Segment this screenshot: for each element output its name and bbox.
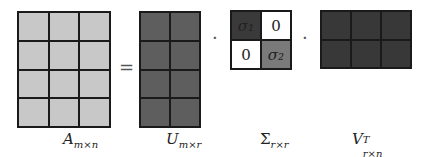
matrix-a-cell <box>49 12 80 41</box>
sigma-1-cell: σ₁ <box>231 11 261 40</box>
multiply-dot-2: · <box>302 27 308 48</box>
matrix-a-cell <box>18 41 49 70</box>
matrix-a-cell <box>49 70 80 99</box>
label-sigma: Σr×r <box>260 130 289 150</box>
label-u: Um×r <box>166 130 201 150</box>
label-a-main: A <box>63 130 74 148</box>
label-sigma-sub: r×r <box>271 139 289 150</box>
matrix-v-transpose <box>320 10 412 69</box>
matrix-a-cell <box>79 41 110 70</box>
matrix-v-cell <box>381 11 411 40</box>
sigma-2-cell: σ₂ <box>261 40 291 69</box>
matrix-v-cell <box>321 11 351 40</box>
matrix-u-cell <box>170 41 200 70</box>
sigma-zero-cell: 0 <box>231 40 261 69</box>
label-u-main: U <box>166 130 179 148</box>
matrix-a-cell <box>49 41 80 70</box>
matrix-u-cell <box>140 41 170 70</box>
matrix-v-cell <box>351 11 381 40</box>
matrix-u-cell <box>140 12 170 41</box>
matrix-u-cell <box>140 98 170 127</box>
matrix-u-cell <box>170 12 200 41</box>
matrix-a-cell <box>18 12 49 41</box>
multiply-dot-1: · <box>212 27 218 48</box>
matrix-a-cell <box>79 98 110 127</box>
matrix-a-cell <box>18 98 49 127</box>
matrix-sigma: σ₁ 0 0 σ₂ <box>230 10 292 70</box>
label-v-sup: T <box>363 134 370 145</box>
label-u-sub: m×r <box>179 139 202 150</box>
label-v-main: V <box>352 130 363 148</box>
sigma-zero-cell: 0 <box>261 11 291 40</box>
label-v: VTr×n <box>352 130 387 148</box>
matrix-v-cell <box>381 40 411 69</box>
matrix-a-cell <box>49 98 80 127</box>
matrix-v-cell <box>351 40 381 69</box>
label-a-sub: m×n <box>74 139 98 150</box>
matrix-u-cell <box>170 70 200 99</box>
matrix-u-cell <box>170 98 200 127</box>
matrix-a-cell <box>79 12 110 41</box>
matrix-a-cell <box>18 70 49 99</box>
matrix-a <box>17 11 111 128</box>
label-v-sub: r×n <box>363 148 383 157</box>
label-a: Am×n <box>63 130 98 150</box>
matrix-u-cell <box>140 70 170 99</box>
label-sigma-main: Σ <box>260 130 271 148</box>
matrix-a-cell <box>79 70 110 99</box>
matrix-u <box>139 11 201 128</box>
matrix-v-cell <box>321 40 351 69</box>
equals-sign: = <box>119 57 134 78</box>
